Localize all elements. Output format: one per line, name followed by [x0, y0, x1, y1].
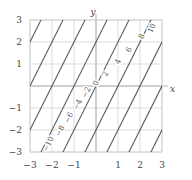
plot-canvas: −10−10−8−8−6−6−4−4−2−200224466881010 −3−… [0, 0, 192, 180]
y-tick-label: 2 [16, 37, 22, 47]
y-tick-label: 3 [16, 15, 22, 25]
x-tick-label: −1 [67, 160, 80, 170]
y-tick-label: 1 [16, 59, 22, 69]
y-tick-label: −1 [9, 103, 22, 113]
x-tick-label: 1 [115, 160, 121, 170]
x-tick-label: 3 [159, 160, 165, 170]
contour-plot-figure: −10−10−8−8−6−6−4−4−2−200224466881010 −3−… [0, 0, 192, 180]
x-axis-label: x [170, 84, 175, 94]
x-tick-label: −3 [23, 160, 37, 170]
y-axis-label: y [89, 7, 96, 17]
y-tick-label: −3 [9, 147, 23, 157]
x-tick-label: 2 [137, 160, 143, 170]
x-tick-label: −2 [45, 160, 58, 170]
y-tick-label: −2 [9, 125, 22, 135]
